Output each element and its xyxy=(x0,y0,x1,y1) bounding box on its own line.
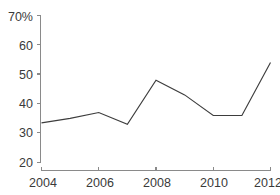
x-tick-label-2006: 2006 xyxy=(86,176,114,190)
y-tick-label-20: 20 xyxy=(19,156,33,170)
x-tick-label-2012: 2010 xyxy=(200,176,228,190)
y-tick-label-30: 30 xyxy=(19,126,33,140)
x-tick-label-2004: 2004 xyxy=(29,176,57,190)
line-chart: 70% 60 50 40 30 20 2004 2006 2008 2010 2… xyxy=(0,0,280,195)
x-tick-label-2012: 2012 xyxy=(254,176,280,190)
y-tick-label-50: 50 xyxy=(19,68,33,82)
y-tick-label-60: 60 xyxy=(19,39,33,53)
y-tick-label-70: 70% xyxy=(8,10,33,24)
chart-plot-area: 70% 60 50 40 30 20 2004 2006 2008 2010 2… xyxy=(0,0,280,195)
y-tick-label-40: 40 xyxy=(19,97,33,111)
x-tick-label-2008: 2008 xyxy=(143,176,171,190)
data-series-line xyxy=(42,63,271,125)
